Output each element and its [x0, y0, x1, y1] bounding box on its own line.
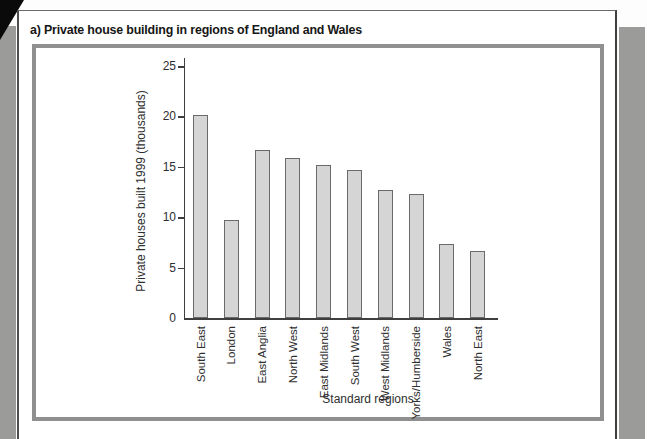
category-label: North West	[287, 326, 300, 383]
x-axis-line	[184, 318, 499, 320]
category-label: London	[225, 326, 238, 364]
category-label: East Midlands	[318, 326, 331, 398]
bar	[255, 150, 270, 318]
category-label: North East	[472, 326, 485, 380]
bar	[409, 194, 424, 318]
y-tick-mark	[178, 217, 184, 219]
category-label: East Anglia	[256, 326, 269, 384]
category-label: South West	[349, 326, 362, 385]
y-tick-label: 20	[134, 110, 176, 122]
right-margin-band	[619, 27, 645, 439]
category-label: Wales	[441, 326, 454, 358]
category-label: Yorks/Humberside	[410, 326, 423, 420]
left-margin-band	[0, 26, 16, 439]
scanned-textbook-figure: a) Private house building in regions of …	[0, 0, 647, 439]
category-label: South East	[195, 326, 208, 382]
bar-chart: Private houses built 1999 (thousands) St…	[36, 48, 600, 417]
bar	[378, 190, 393, 318]
category-label: West Midlands	[379, 326, 392, 401]
bar	[285, 158, 300, 318]
y-tick-label: 10	[134, 211, 176, 223]
x-axis-label: Standard regions	[322, 392, 413, 406]
page: a) Private house building in regions of …	[17, 10, 617, 439]
y-tick-label: 15	[134, 161, 176, 173]
y-tick-label: 0	[134, 312, 176, 324]
bar	[439, 244, 454, 318]
bar	[193, 115, 208, 318]
y-tick-mark	[178, 66, 184, 68]
bar	[470, 251, 485, 318]
chart-panel: Private houses built 1999 (thousands) St…	[32, 44, 604, 421]
y-tick-label: 5	[134, 262, 176, 274]
y-tick-mark	[178, 116, 184, 118]
y-tick-mark	[178, 167, 184, 169]
y-axis-line	[184, 58, 186, 320]
bar	[224, 220, 239, 318]
bar	[347, 170, 362, 318]
y-tick-label: 25	[134, 60, 176, 72]
bar	[316, 165, 331, 318]
figure-title: a) Private house building in regions of …	[30, 22, 362, 37]
y-tick-mark	[178, 268, 184, 270]
